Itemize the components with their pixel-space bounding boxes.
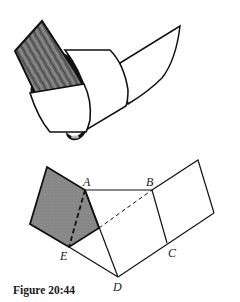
tail-flap xyxy=(120,26,180,104)
right-flap xyxy=(152,160,214,213)
front-band xyxy=(30,84,90,132)
edge-BC xyxy=(152,190,167,243)
edge-ED xyxy=(69,247,118,277)
label-B: B xyxy=(146,175,154,189)
net-diagram: A B C D E xyxy=(30,160,214,294)
wrapped-strip-illustration xyxy=(15,21,180,140)
label-C: C xyxy=(168,246,177,260)
figure-canvas: A B C D E Figure 20:44 xyxy=(0,0,240,302)
label-D: D xyxy=(112,280,122,294)
label-E: E xyxy=(59,249,68,263)
edge-DC xyxy=(118,213,214,277)
fold-line-to-B xyxy=(99,190,152,228)
label-A: A xyxy=(82,175,91,189)
figure-caption: Figure 20:44 xyxy=(13,284,75,297)
